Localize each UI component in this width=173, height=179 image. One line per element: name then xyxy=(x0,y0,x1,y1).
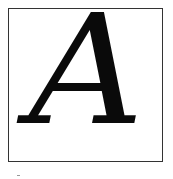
letter-frame: A xyxy=(8,8,163,162)
small-mark xyxy=(17,175,20,176)
italic-letter-glyph: A xyxy=(8,8,163,147)
